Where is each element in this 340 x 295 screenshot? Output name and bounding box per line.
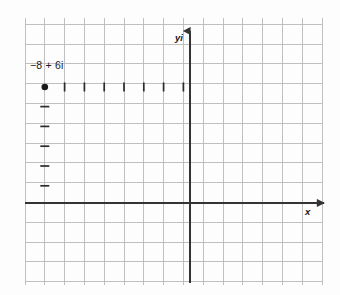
point-label-text: −8 + 6i [30, 59, 64, 71]
complex-plane-figure: −8 + 6i yi x [0, 0, 340, 295]
x-axis-label: x [305, 206, 310, 217]
plotted-point-label: −8 + 6i [30, 59, 64, 71]
graph-canvas [0, 0, 340, 295]
plotted-point-marker[interactable] [42, 84, 49, 91]
y-axis-label: yi [175, 32, 183, 43]
